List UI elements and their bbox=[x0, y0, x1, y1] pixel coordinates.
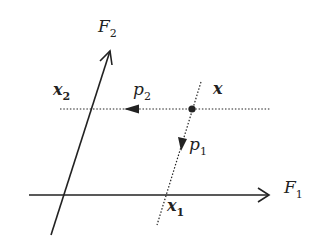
f2-axis bbox=[51, 51, 112, 235]
diagram-canvas: F2 F1 x2 x1 x p2 p1 bbox=[0, 0, 325, 247]
f2-label: F2 bbox=[97, 16, 117, 40]
p2-arrow-icon bbox=[124, 105, 139, 114]
p1-arrow-icon bbox=[178, 137, 187, 151]
p2-label: p2 bbox=[133, 79, 151, 103]
point-x-dot bbox=[188, 105, 195, 112]
point-x-label: x bbox=[212, 79, 223, 98]
x1-label: x1 bbox=[166, 196, 184, 219]
f1-label: F1 bbox=[283, 177, 303, 201]
x2-label: x2 bbox=[52, 80, 70, 103]
p1-label: p1 bbox=[189, 134, 207, 158]
